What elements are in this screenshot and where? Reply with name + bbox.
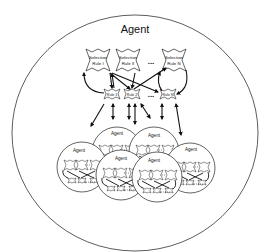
svg-text:Agent: Agent [148,133,161,138]
rule-1: Rule 1 [104,89,120,99]
rule-2: Rule 2 [124,89,140,99]
svg-text:Selection: Selection [119,55,138,60]
svg-text:Rule I: Rule I [92,61,103,66]
rules-ellipsis: ... [148,90,155,99]
svg-text:Agent: Agent [115,156,128,161]
svg-text:Agent: Agent [148,158,161,163]
svg-text:Rule N: Rule N [167,61,180,66]
agent-architecture-diagram: Agent Selection Rule I Selection Rule II… [0,0,270,252]
svg-text:Selection: Selection [89,55,108,60]
rule-n: Rule N [160,89,176,99]
outer-agent-label: Agent [121,23,150,35]
inner-agent-5: Agent [132,152,182,202]
outer-agent-boundary [12,15,258,251]
svg-text:Rule 2: Rule 2 [127,93,137,97]
svg-text:Agent: Agent [185,147,198,152]
svg-text:Agent: Agent [111,131,124,136]
svg-text:Rule II: Rule II [122,61,135,66]
svg-text:Selection: Selection [165,55,184,60]
svg-text:Rule N: Rule N [163,93,174,97]
selection-ellipsis: ... [148,57,155,66]
svg-text:Rule 1: Rule 1 [107,93,117,97]
svg-text:Agent: Agent [73,148,86,153]
